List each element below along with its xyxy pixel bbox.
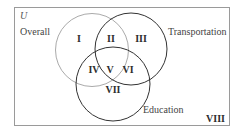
set-label-education: Education	[143, 104, 184, 115]
region-VIII: VIII	[206, 113, 225, 124]
universe-label: U	[20, 10, 28, 21]
region-I: I	[77, 33, 81, 44]
region-VII: VII	[105, 84, 120, 95]
region-IV: IV	[88, 64, 100, 75]
region-VI: VI	[122, 64, 133, 75]
region-V: V	[106, 64, 114, 75]
region-III: III	[135, 33, 147, 44]
venn-diagram: U Overall Transportation Education I II …	[0, 0, 240, 133]
overall-circle	[56, 14, 129, 87]
set-label-overall: Overall	[20, 26, 50, 37]
region-II: II	[107, 33, 115, 44]
set-label-transportation: Transportation	[168, 26, 227, 37]
